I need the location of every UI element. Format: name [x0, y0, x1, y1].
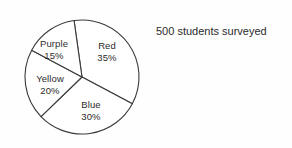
slice-name-blue: Blue [70, 99, 112, 111]
slice-percent-blue: 30% [70, 111, 112, 123]
slice-percent-yellow: 20% [25, 85, 75, 97]
slice-name-red: Red [86, 40, 128, 52]
slice-label-purple: Purple 15% [30, 38, 78, 61]
survey-caption: 500 students surveyed [156, 24, 267, 38]
slice-label-red: Red 35% [86, 40, 128, 63]
slice-percent-red: 35% [86, 52, 128, 64]
slice-name-purple: Purple [30, 38, 78, 50]
slice-label-blue: Blue 30% [70, 99, 112, 122]
slice-percent-purple: 15% [30, 50, 78, 62]
slice-name-yellow: Yellow [25, 73, 75, 85]
slice-label-yellow: Yellow 20% [25, 73, 75, 96]
pie-chart-figure: Red 35% Blue 30% Yellow 20% Purple 15% 5… [0, 0, 292, 148]
